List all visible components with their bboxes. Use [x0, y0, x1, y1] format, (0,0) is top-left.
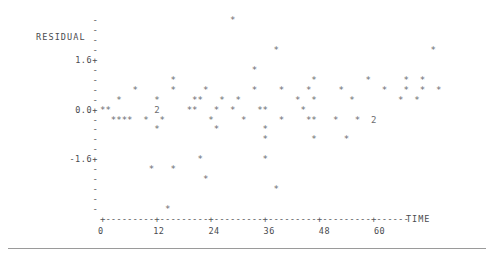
x-axis-tick-label: 12 [153, 227, 164, 236]
plot-data-row: * [100, 16, 235, 25]
y-axis-tick: - [0, 195, 98, 204]
x-axis-label: TIME [406, 215, 430, 224]
plot-data-row: * * ** * * * * * * * [100, 96, 420, 105]
plot-data-row: * [100, 185, 279, 194]
y-axis-tick-labeled: 1.6+ [0, 56, 98, 65]
x-axis-tick-label: 36 [264, 227, 275, 236]
y-axis-tick: - [0, 165, 98, 174]
plot-data-row: * [100, 205, 170, 214]
y-axis-tick: - [0, 46, 98, 55]
y-axis-tick: - [0, 185, 98, 194]
plot-data-row: * * [100, 155, 268, 164]
y-axis-tick: - [0, 135, 98, 144]
x-axis-line: +---------+---------+---------+---------… [100, 215, 409, 224]
residual-vs-time-plot: RESIDUAL ----1.6+----0.0+-----1.6+----- … [0, 0, 494, 265]
plot-data-row: ** 2 ** * * ** * [100, 106, 306, 115]
y-axis-tick: - [0, 66, 98, 75]
y-axis-tick: - [0, 125, 98, 134]
y-axis-tick: - [0, 36, 98, 45]
y-axis-tick: - [0, 205, 98, 214]
plot-data-row: * * * * * * * * * * * [100, 86, 441, 95]
plot-data-row: * * * [100, 125, 268, 134]
y-axis-tick: - [0, 116, 98, 125]
y-axis-tick: - [0, 145, 98, 154]
plot-data-row: * * * [100, 135, 349, 144]
y-axis-tick: - [0, 86, 98, 95]
y-axis-tick: - [0, 96, 98, 105]
y-axis-tick: - [0, 76, 98, 85]
x-axis-tick-label: 60 [374, 227, 385, 236]
footer-rule [8, 248, 486, 249]
y-axis-tick-labeled: -1.6+ [0, 155, 98, 164]
y-axis-tick: - [0, 26, 98, 35]
plot-data-row: * [100, 175, 208, 184]
y-axis-tick: - [0, 16, 98, 25]
x-axis-tick-label: 24 [208, 227, 219, 236]
plot-data-row: **** * * * * * ** * * 2 [100, 116, 376, 125]
plot-data-row: * * [100, 165, 176, 174]
plot-data-row: * * * * * [100, 76, 425, 85]
y-axis-tick-labeled: 0.0+ [0, 106, 98, 115]
x-axis-tick-label: 48 [319, 227, 330, 236]
plot-data-row: * [100, 66, 257, 75]
plot-data-row: * * [100, 46, 436, 55]
y-axis-tick: - [0, 175, 98, 184]
x-axis-tick-label: 0 [98, 227, 104, 236]
